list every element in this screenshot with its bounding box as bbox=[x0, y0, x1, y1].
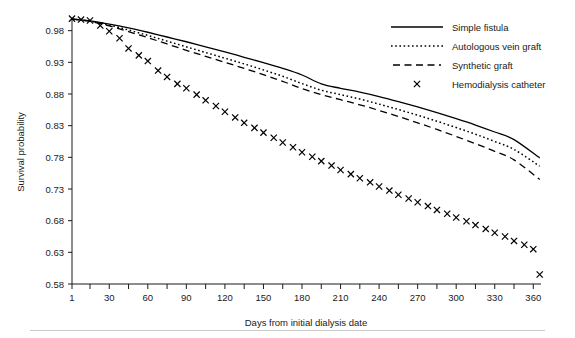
x-axis-tick-label: 90 bbox=[181, 292, 192, 303]
legend-item-label: Synthetic graft bbox=[452, 60, 513, 71]
y-axis-tick-label: 0.58 bbox=[46, 279, 65, 290]
x-axis: 1306090120150180210240270300330360 bbox=[69, 284, 541, 303]
x-axis-tick-label: 270 bbox=[410, 292, 426, 303]
plot-series-group bbox=[69, 16, 543, 278]
x-axis-tick-label: 360 bbox=[525, 292, 541, 303]
y-axis-tick-label: 0.98 bbox=[46, 25, 65, 36]
survival-probability-chart: 0.580.630.680.730.780.830.880.930.98 130… bbox=[0, 0, 575, 338]
y-axis-tick-label: 0.73 bbox=[46, 184, 65, 195]
legend-item: Hemodialysis catheter bbox=[414, 79, 546, 90]
legend-item-label: Autologous vein graft bbox=[452, 41, 542, 52]
x-axis-tick-label: 240 bbox=[371, 292, 387, 303]
survival-curve-figure: 0.580.630.680.730.780.830.880.930.98 130… bbox=[0, 0, 575, 338]
legend-item: Synthetic graft bbox=[393, 60, 513, 71]
y-axis-tick-label: 0.83 bbox=[46, 120, 65, 131]
chart-legend: Simple fistulaAutologous vein graftSynth… bbox=[391, 22, 545, 90]
x-axis-tick-label: 300 bbox=[448, 292, 464, 303]
y-axis-tick-label: 0.88 bbox=[46, 89, 65, 100]
x-axis-tick-label: 180 bbox=[294, 292, 310, 303]
x-axis-tick-label: 120 bbox=[217, 292, 233, 303]
series-hemodialysis-catheter bbox=[69, 16, 543, 278]
legend-item: Simple fistula bbox=[391, 22, 509, 33]
y-axis-tick-label: 0.78 bbox=[46, 152, 65, 163]
x-axis-tick-label: 30 bbox=[104, 292, 115, 303]
x-axis-tick-label: 330 bbox=[487, 292, 503, 303]
y-axis-tick-label: 0.93 bbox=[46, 57, 65, 68]
x-axis-tick-label: 210 bbox=[333, 292, 349, 303]
x-axis-title: Days from initial dialysis date bbox=[245, 317, 368, 328]
y-axis-tick-label: 0.68 bbox=[46, 215, 65, 226]
y-axis-title: Survival probability bbox=[15, 112, 26, 192]
legend-item-label: Hemodialysis catheter bbox=[452, 79, 545, 90]
y-axis-tick-label: 0.63 bbox=[46, 247, 65, 258]
x-axis-tick-label: 1 bbox=[69, 292, 74, 303]
legend-item: Autologous vein graft bbox=[391, 41, 542, 52]
x-axis-tick-label: 60 bbox=[143, 292, 154, 303]
legend-item-label: Simple fistula bbox=[452, 22, 509, 33]
figure-footer-rule bbox=[30, 330, 545, 331]
y-axis: 0.580.630.680.730.780.830.880.930.98 bbox=[46, 19, 73, 290]
x-axis-tick-label: 150 bbox=[256, 292, 272, 303]
